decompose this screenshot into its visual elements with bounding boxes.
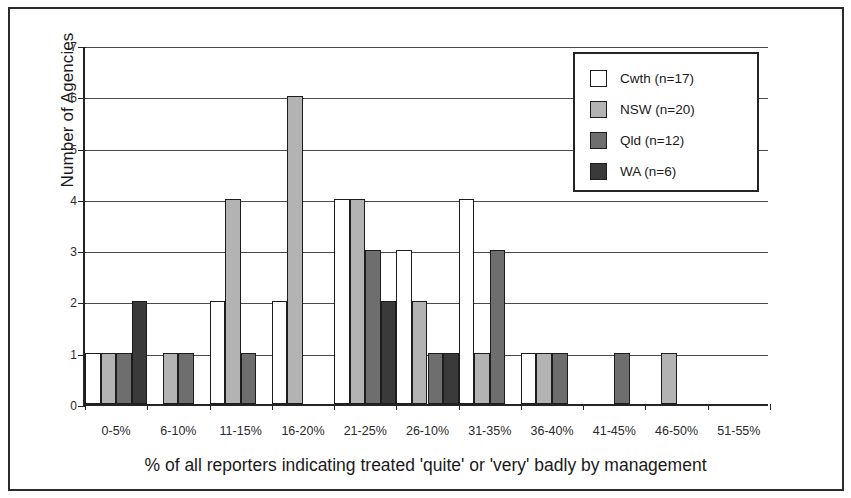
y-axis-tick xyxy=(78,47,86,48)
bar-wa-0-5% xyxy=(132,301,148,404)
bar-nsw-26-10% xyxy=(412,301,428,404)
x-axis-tick-label: 51-55% xyxy=(717,424,760,438)
y-axis-tick-label: 3 xyxy=(55,246,77,258)
x-axis-tick-label: 21-25% xyxy=(344,424,387,438)
bar-qld-6-10% xyxy=(178,353,194,404)
bar-cwth-16-20% xyxy=(272,301,288,404)
bar-nsw-36-40% xyxy=(536,353,552,404)
y-axis-tick-label: 5 xyxy=(55,144,77,156)
figure-border-bottom xyxy=(8,489,844,491)
x-axis-tick xyxy=(147,404,148,410)
legend-item-1: NSW (n=20) xyxy=(575,94,757,125)
bar-cwth-11-15% xyxy=(210,301,226,404)
y-axis-tick-label: 0 xyxy=(55,400,77,412)
bar-nsw-11-15% xyxy=(225,199,241,404)
x-axis-tick-label: 6-10% xyxy=(160,424,196,438)
x-axis-tick-label: 36-40% xyxy=(530,424,573,438)
x-axis-tick-label: 11-15% xyxy=(220,424,262,438)
bar-nsw-31-35% xyxy=(474,353,490,404)
bar-nsw-0-5% xyxy=(101,353,117,404)
y-axis-title: Number of Agencies xyxy=(58,0,78,250)
x-axis-tick xyxy=(459,404,460,410)
x-axis-tick-label: 41-45% xyxy=(593,424,636,438)
x-axis-tick xyxy=(583,404,584,410)
bar-qld-0-5% xyxy=(116,353,132,404)
bar-wa-26-10% xyxy=(443,353,459,404)
legend-swatch-icon xyxy=(590,163,607,180)
bar-cwth-21-25% xyxy=(334,199,350,404)
bar-qld-21-25% xyxy=(365,250,381,404)
chart-figure: Number of Agencies 01234567 0-5%6-10%11-… xyxy=(0,0,851,498)
bar-qld-11-15% xyxy=(241,353,257,404)
legend-swatch-icon xyxy=(590,101,607,118)
y-axis-tick-label: 1 xyxy=(55,349,77,361)
x-axis-tick-label: 26-10% xyxy=(406,424,449,438)
x-axis-tick xyxy=(272,404,273,410)
legend-item-0: Cwth (n=17) xyxy=(575,63,757,94)
x-axis-tick xyxy=(521,404,522,410)
bar-cwth-26-10% xyxy=(396,250,412,404)
bar-nsw-16-20% xyxy=(287,96,303,404)
y-axis-tick xyxy=(78,303,86,304)
legend-swatch-icon xyxy=(590,132,607,149)
y-axis-tick xyxy=(78,150,86,151)
x-axis-tick-label: 0-5% xyxy=(102,424,131,438)
bar-wa-21-25% xyxy=(381,301,397,404)
x-axis-tick xyxy=(770,404,771,410)
gridline xyxy=(85,201,768,202)
x-axis-tick-label: 46-50% xyxy=(655,424,698,438)
gridline xyxy=(85,47,768,48)
x-axis-tick xyxy=(85,404,86,410)
x-axis-tick-label: 16-20% xyxy=(281,424,324,438)
y-axis-tick xyxy=(78,201,86,202)
y-axis-tick xyxy=(78,98,86,99)
bar-qld-26-10% xyxy=(428,353,444,404)
x-axis-tick xyxy=(334,404,335,410)
bar-cwth-0-5% xyxy=(85,353,101,404)
bar-qld-31-35% xyxy=(490,250,506,404)
x-axis-tick-label: 31-35% xyxy=(468,424,511,438)
x-axis-title: % of all reporters indicating treated 'q… xyxy=(0,455,851,476)
y-axis-tick xyxy=(78,252,86,253)
x-axis-tick xyxy=(645,404,646,410)
bar-nsw-6-10% xyxy=(163,353,179,404)
legend-label: WA (n=6) xyxy=(620,164,676,179)
y-axis-tick-label: 4 xyxy=(55,195,77,207)
bar-nsw-46-50% xyxy=(661,353,677,404)
legend-item-3: WA (n=6) xyxy=(575,156,757,187)
y-axis-tick-label: 7 xyxy=(55,41,77,53)
legend-swatch-icon xyxy=(590,70,607,87)
legend-label: Cwth (n=17) xyxy=(620,71,694,86)
legend-item-2: Qld (n=12) xyxy=(575,125,757,156)
x-axis-tick xyxy=(396,404,397,410)
bar-nsw-21-25% xyxy=(350,199,366,404)
legend-label: NSW (n=20) xyxy=(620,102,695,117)
bar-qld-41-45% xyxy=(614,353,630,404)
bar-cwth-31-35% xyxy=(459,199,475,404)
gridline xyxy=(85,252,768,253)
x-axis-tick xyxy=(210,404,211,410)
bar-cwth-36-40% xyxy=(521,353,537,404)
bar-qld-36-40% xyxy=(552,353,568,404)
y-axis-tick-label: 6 xyxy=(55,92,77,104)
y-axis-tick-label: 2 xyxy=(55,297,77,309)
legend-label: Qld (n=12) xyxy=(620,133,684,148)
x-axis-tick xyxy=(708,404,709,410)
chart-legend: Cwth (n=17)NSW (n=20)Qld (n=12)WA (n=6) xyxy=(573,52,759,192)
